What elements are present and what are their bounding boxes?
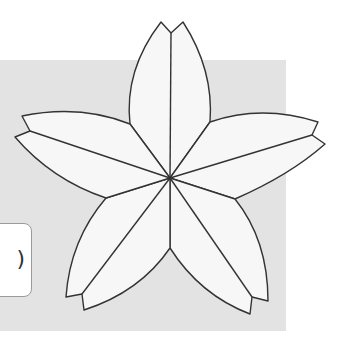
flower-diagram: [0, 0, 339, 342]
midrib-top: [170, 33, 171, 178]
